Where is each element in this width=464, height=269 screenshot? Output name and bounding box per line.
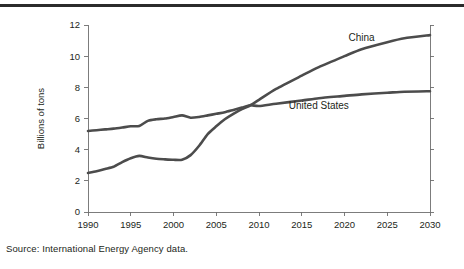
x-tick-label: 2030 xyxy=(419,219,440,230)
y-tick-label: 12 xyxy=(69,19,80,30)
y-tick-label: 0 xyxy=(75,206,80,217)
x-tick-label: 2025 xyxy=(377,219,398,230)
y-tick-label: 10 xyxy=(69,51,80,62)
y-axis-tick-marks-right xyxy=(430,25,434,212)
y-axis-tick-marks xyxy=(84,25,88,212)
y-tick-label: 2 xyxy=(75,175,80,186)
line-chart-svg: 024681012 199019952000200520102015202020… xyxy=(0,0,464,236)
x-tick-label: 2020 xyxy=(334,219,355,230)
y-axis-tick-labels: 024681012 xyxy=(69,19,80,217)
y-axis-title: Billions of tons xyxy=(35,88,46,150)
data-series-labels: United StatesChina xyxy=(289,32,375,111)
series-line-united-states xyxy=(88,91,430,131)
x-axis-tick-marks xyxy=(88,212,430,216)
series-line-china xyxy=(88,35,430,173)
x-tick-label: 2005 xyxy=(206,219,227,230)
data-series-lines xyxy=(88,35,430,173)
chart-plot-area: 024681012 199019952000200520102015202020… xyxy=(0,0,464,236)
x-tick-label: 1995 xyxy=(120,219,141,230)
x-tick-label: 2010 xyxy=(248,219,269,230)
figure-container: 024681012 199019952000200520102015202020… xyxy=(0,0,464,269)
series-label-china: China xyxy=(349,32,376,43)
y-tick-label: 6 xyxy=(75,113,80,124)
source-note: Source: International Energy Agency data… xyxy=(6,243,188,254)
x-tick-label: 2000 xyxy=(163,219,184,230)
x-axis-tick-labels: 199019952000200520102015202020252030 xyxy=(77,219,440,230)
y-tick-label: 8 xyxy=(75,82,80,93)
x-tick-label: 1990 xyxy=(77,219,98,230)
series-label-united-states: United States xyxy=(289,100,349,111)
y-tick-label: 4 xyxy=(75,144,80,155)
x-tick-label: 2015 xyxy=(291,219,312,230)
